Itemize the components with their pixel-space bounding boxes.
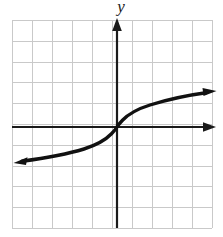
coordinate-plane (0, 0, 223, 237)
x-axis-arrow-icon (203, 122, 216, 132)
graph-figure: y (0, 0, 223, 237)
curve-left-arrow-icon (14, 157, 28, 165)
curve-right-arrow-icon (203, 88, 217, 96)
grid-lines (12, 20, 213, 229)
y-axis-label: y (106, 0, 136, 17)
